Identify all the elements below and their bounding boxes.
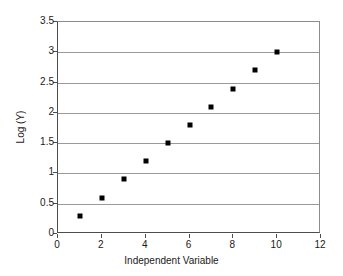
scatter-chart-figure: 00.511.522.533.5 024681012 Log (Y) Indep…	[0, 0, 343, 276]
y-axis-tick-label: 1.5	[40, 137, 54, 147]
x-axis-tick-label: 8	[230, 240, 236, 250]
gridline	[58, 143, 319, 144]
gridline	[58, 113, 319, 114]
x-axis-tick-label: 10	[271, 240, 282, 250]
data-point	[121, 177, 126, 182]
y-axis-tick-label: 3.5	[40, 16, 54, 26]
data-point	[209, 104, 214, 109]
gridline	[58, 204, 319, 205]
gridline	[58, 173, 319, 174]
y-axis-tick-label: 2.5	[40, 77, 54, 87]
data-point	[143, 159, 148, 164]
x-axis-tick-label: 0	[54, 240, 60, 250]
x-axis-tick	[320, 234, 321, 238]
plot-area	[57, 21, 320, 233]
y-axis-tick-label: 2	[48, 107, 54, 117]
x-axis-tick	[145, 234, 146, 238]
x-axis-tick	[232, 234, 233, 238]
x-axis-tick	[189, 234, 190, 238]
data-point	[187, 122, 192, 127]
data-point	[77, 213, 82, 218]
y-axis-title: Log (Y)	[16, 111, 26, 144]
x-axis-tick	[57, 234, 58, 238]
data-point	[231, 86, 236, 91]
x-axis-tick-label: 2	[98, 240, 104, 250]
data-point	[165, 141, 170, 146]
data-point	[253, 68, 258, 73]
y-axis-tick-label: 0	[48, 228, 54, 238]
data-point	[99, 195, 104, 200]
x-axis-title: Independent Variable	[0, 256, 343, 266]
data-point	[275, 50, 280, 55]
x-axis-tick-label: 4	[142, 240, 148, 250]
y-axis-tick-label: 0.5	[40, 198, 54, 208]
x-axis-tick	[276, 234, 277, 238]
x-axis-tick-label: 6	[186, 240, 192, 250]
x-axis-tick	[101, 234, 102, 238]
x-axis-tick-label: 12	[314, 240, 325, 250]
gridline	[58, 52, 319, 53]
y-axis-tick-label: 3	[48, 46, 54, 56]
y-axis-tick-label: 1	[48, 167, 54, 177]
gridline	[58, 83, 319, 84]
